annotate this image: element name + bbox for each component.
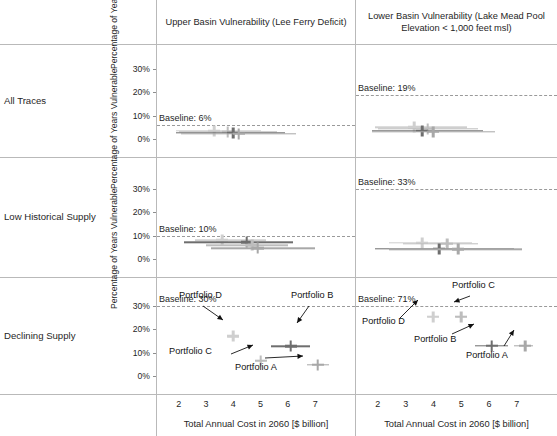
y-tick-mark <box>153 139 156 140</box>
y-tick-label: 10% <box>120 111 150 121</box>
baseline-label: Baseline: 19% <box>358 83 416 93</box>
marker-stem-portfolio-a <box>432 126 435 137</box>
y-tick-label: 0% <box>120 134 150 144</box>
y-tick-label: 20% <box>120 324 150 334</box>
panel-declining-supply-lower-basin: Baseline: 71%Portfolio DPortfolio CPortf… <box>356 278 557 394</box>
marker-stem-portfolio-a <box>237 128 240 139</box>
panel-all-traces-lower-basin: Baseline: 19% <box>356 45 557 157</box>
annotation-arrow-portfolio-a <box>356 278 557 394</box>
panel-low-historical-supply-upper-basin: Baseline: 10% <box>157 158 355 277</box>
y-tick-label: 30% <box>120 301 150 311</box>
x-tick-label: 2 <box>171 399 187 409</box>
x-tick-label: 2 <box>370 399 386 409</box>
x-tick-label: 4 <box>225 399 241 409</box>
panel-declining-supply-upper-basin: Baseline: 30%Portfolio DPortfolio BPortf… <box>157 278 355 394</box>
y-tick-label: 10% <box>120 231 150 241</box>
y-tick-mark <box>153 329 156 330</box>
x-tick-label: 5 <box>253 399 269 409</box>
x-axis-title-upper: Total Annual Cost in 2060 [$ billion] <box>157 419 355 429</box>
y-tick-mark <box>153 353 156 354</box>
y-axis-title-row-3: Percentage of Years Vulnerable <box>108 298 120 388</box>
y-tick-mark <box>153 212 156 213</box>
panel-low-historical-supply-lower-basin: Baseline: 33% <box>356 158 557 277</box>
panel-all-traces-upper-basin: Baseline: 6% <box>157 45 355 157</box>
y-tick-label: 20% <box>120 207 150 217</box>
marker-stem-portfolio-a <box>257 243 260 254</box>
y-tick-mark <box>153 116 156 117</box>
error-bar-portfolio-b <box>184 242 293 243</box>
y-tick-mark <box>153 236 156 237</box>
y-tick-mark <box>153 306 156 307</box>
y-tick-label: 0% <box>120 371 150 381</box>
annotation-arrow-portfolio-a <box>157 278 355 394</box>
y-tick-label: 0% <box>120 254 150 264</box>
marker-stem-portfolio-a <box>457 244 460 255</box>
baseline-line <box>157 125 355 126</box>
baseline-line <box>356 189 557 190</box>
row-label-low-historical-supply: Low Historical Supply <box>4 157 100 277</box>
x-tick-label: 4 <box>425 399 441 409</box>
y-tick-mark <box>153 189 156 190</box>
row-label-declining-supply: Declining Supply <box>4 277 100 394</box>
baseline-label: Baseline: 6% <box>159 113 212 123</box>
x-tick-label: 3 <box>398 399 414 409</box>
baseline-label: Baseline: 33% <box>358 177 416 187</box>
y-tick-label: 30% <box>120 64 150 74</box>
baseline-label: Baseline: 10% <box>159 224 217 234</box>
x-tick-label: 6 <box>280 399 296 409</box>
row-label-all-traces: All Traces <box>4 44 100 157</box>
baseline-line <box>356 95 557 96</box>
y-tick-mark <box>153 376 156 377</box>
x-tick-label: 5 <box>453 399 469 409</box>
y-tick-label: 20% <box>120 87 150 97</box>
column-header-upper-basin: Upper Basin Vulnerability (Lee Ferry Def… <box>157 0 355 44</box>
y-tick-label: 30% <box>120 184 150 194</box>
y-axis-title-text: Percentage of Years Vulnerable <box>109 297 119 309</box>
small-multiples-figure: Upper Basin Vulnerability (Lee Ferry Def… <box>0 0 557 436</box>
x-tick-label: 7 <box>509 399 525 409</box>
y-tick-mark <box>153 69 156 70</box>
x-tick-label: 3 <box>198 399 214 409</box>
baseline-line <box>157 236 355 237</box>
y-tick-mark <box>153 92 156 93</box>
y-tick-label: 10% <box>120 348 150 358</box>
x-axis-title-lower: Total Annual Cost in 2060 [$ billion] <box>356 419 557 429</box>
axis-divider <box>0 394 557 395</box>
x-tick-label: 7 <box>307 399 323 409</box>
column-header-lower-basin: Lower Basin Vulnerability (Lake Mead Poo… <box>356 0 557 44</box>
x-tick-label: 6 <box>481 399 497 409</box>
y-tick-mark <box>153 259 156 260</box>
